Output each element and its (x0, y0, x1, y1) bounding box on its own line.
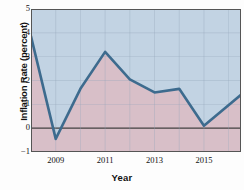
plot-area (31, 9, 241, 152)
x-tick-label: 2009 (36, 155, 76, 165)
x-tick-label: 2015 (184, 155, 224, 165)
plot-svg (31, 9, 241, 152)
x-tick-label: 2013 (135, 155, 175, 165)
inflation-rate-chart: Inflation Rate (percent) Year 543210−1 2… (0, 0, 244, 190)
x-tick-label: 2011 (85, 155, 125, 165)
